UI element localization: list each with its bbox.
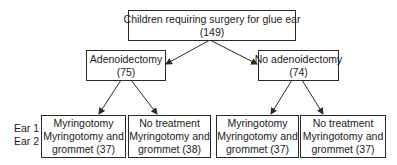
leaf-line-count: grommet (37) [311, 143, 374, 156]
leaf-line-ear-1: No treatment [313, 117, 374, 130]
no-adenoidectomy-count: (74) [289, 66, 308, 79]
row-label-ear-1: Ear 1 [14, 122, 39, 135]
leaf-line-ear-1: No treatment [139, 117, 200, 130]
no-adenoidectomy-node: No adenoidectomy (74) [258, 50, 339, 81]
leaf-no-adenoidectomy-myringotomy: Myringotomy Myringotomy and grommet (37) [216, 115, 299, 158]
leaf-line-ear-1: Myringotomy [227, 117, 287, 130]
root-node: Children requiring surgery for glue ear … [128, 10, 296, 41]
root-node-title: Children requiring surgery for glue ear [124, 13, 301, 26]
leaf-adenoidectomy-no-treatment: No treatment Myringotomy and grommet (38… [128, 115, 211, 158]
root-node-count: (149) [200, 26, 225, 39]
row-label-ear-2: Ear 2 [14, 135, 39, 148]
leaf-line-count: grommet (38) [138, 143, 201, 156]
arrow-root-to-adenoidectomy [166, 40, 210, 64]
leaf-line-count: grommet (37) [226, 143, 289, 156]
leaf-line-ear-2: Myringotomy and [303, 130, 384, 143]
arrow-no-adenoidectomy-to-leaf-4 [302, 80, 323, 114]
leaf-line-ear-2: Myringotomy and [217, 130, 298, 143]
no-adenoidectomy-title: No adenoidectomy [255, 53, 343, 66]
arrow-root-to-no-adenoidectomy [210, 40, 257, 64]
arrow-adenoidectomy-to-leaf-1 [99, 80, 121, 114]
arrow-no-adenoidectomy-to-leaf-3 [271, 80, 292, 114]
adenoidectomy-node: Adenoidectomy (75) [86, 50, 166, 81]
adenoidectomy-title: Adenoidectomy [90, 53, 162, 66]
adenoidectomy-count: (75) [117, 66, 136, 79]
leaf-line-count: grommet (37) [52, 143, 115, 156]
leaf-no-adenoidectomy-no-treatment: No treatment Myringotomy and grommet (37… [300, 115, 386, 158]
leaf-line-ear-2: Myringotomy and [129, 130, 210, 143]
arrow-adenoidectomy-to-leaf-2 [131, 80, 157, 114]
leaf-line-ear-2: Myringotomy and [43, 130, 124, 143]
leaf-line-ear-1: Myringotomy [53, 117, 113, 130]
leaf-adenoidectomy-myringotomy: Myringotomy Myringotomy and grommet (37) [41, 115, 126, 158]
